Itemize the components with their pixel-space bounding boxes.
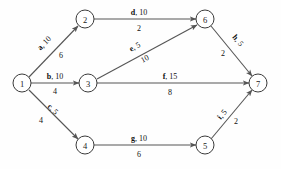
edge-value-d: , 10 — [135, 8, 147, 17]
node-label-5: 5 — [203, 141, 207, 151]
node-1[interactable]: 1 — [13, 74, 31, 92]
edge-value-f: , 15 — [165, 72, 177, 81]
edge-cost-h: 2 — [221, 49, 225, 58]
node-label-6: 6 — [203, 15, 207, 25]
edge-label-f: f, 15 — [163, 72, 178, 81]
edge-cost-b: 4 — [53, 87, 57, 96]
edge-label-e: e, 5 — [128, 40, 142, 53]
node-4[interactable]: 4 — [76, 136, 94, 154]
node-3[interactable]: 3 — [79, 74, 97, 92]
edge-h — [211, 26, 252, 76]
edge-cost-d: 2 — [137, 24, 141, 33]
edge-cost-a: 6 — [59, 51, 63, 60]
edge-label-h: h, 5 — [230, 33, 245, 48]
edge-value-g: , 10 — [135, 134, 147, 143]
node-label-3: 3 — [86, 79, 90, 89]
edge-cost-c: 4 — [39, 116, 43, 125]
activity-network-diagram: 1234567 a, 106b, 104c, 54d, 102e, 510f, … — [0, 0, 281, 169]
edge-label-c: c, 5 — [45, 102, 60, 117]
edge-a — [29, 26, 78, 77]
node-2[interactable]: 2 — [76, 10, 94, 28]
edge-cost-g: 6 — [137, 150, 141, 159]
node-5[interactable]: 5 — [196, 136, 214, 154]
edge-label-d: d, 10 — [131, 8, 147, 17]
node-6[interactable]: 6 — [196, 10, 214, 28]
node-7[interactable]: 7 — [249, 74, 267, 92]
edge-label-i: i, 5 — [215, 108, 228, 122]
edge-e — [97, 25, 197, 79]
edges-layer — [29, 19, 252, 145]
edge-label-a: a, 10 — [35, 34, 53, 52]
edge-label-g: g, 10 — [131, 134, 147, 143]
edge-value-b: , 10 — [51, 72, 63, 81]
diagram-canvas: 1234567 a, 106b, 104c, 54d, 102e, 510f, … — [0, 0, 281, 169]
node-label-7: 7 — [256, 79, 260, 89]
edge-label-b: b, 10 — [47, 72, 63, 81]
node-label-1: 1 — [20, 79, 24, 89]
edge-cost-i: 2 — [234, 117, 238, 126]
edge-cost-f: 8 — [168, 88, 172, 97]
node-label-2: 2 — [83, 15, 87, 25]
edge-cost-e: 10 — [139, 53, 150, 65]
